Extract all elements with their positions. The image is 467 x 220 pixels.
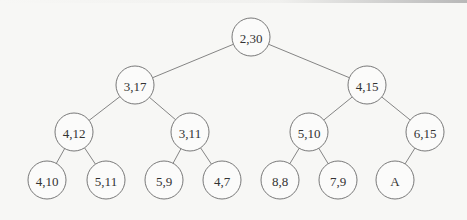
node-label: 5,11 xyxy=(95,174,117,189)
tree-edge xyxy=(153,44,234,77)
tree-node-leaf: 4,7 xyxy=(203,161,241,199)
tree-node: 4,15 xyxy=(348,66,386,104)
tree-edge xyxy=(382,97,410,120)
tree-edge xyxy=(405,148,415,164)
tree-node: 3,17 xyxy=(116,66,154,104)
tree-edge xyxy=(56,149,64,164)
node-label: 6,15 xyxy=(414,126,437,141)
tree-node-root: 2,30 xyxy=(232,18,270,56)
tree-edge xyxy=(324,97,352,120)
node-label: 8,8 xyxy=(272,174,288,189)
tree-edge xyxy=(89,97,120,121)
tree-node-leaf: 5,11 xyxy=(87,161,125,199)
tree-diagram: 2,30 3,17 4,15 4,12 3,11 5,10 6,15 4,10 … xyxy=(0,0,467,220)
node-label: 5,9 xyxy=(156,174,172,189)
tree-edge xyxy=(201,148,212,164)
tree-edge xyxy=(290,148,299,163)
tree-node-leaf: 7,9 xyxy=(319,161,357,199)
tree-node: 5,10 xyxy=(290,113,328,151)
tree-edges xyxy=(56,44,415,164)
tree-node: 6,15 xyxy=(406,113,444,151)
tree-node: 4,12 xyxy=(55,113,93,151)
tree-edge xyxy=(173,149,181,164)
node-label: 2,30 xyxy=(240,31,263,46)
tree-edge xyxy=(85,148,96,164)
node-label: 7,9 xyxy=(330,174,346,189)
tree-node-leaf: 8,8 xyxy=(261,161,299,199)
tree-edge xyxy=(269,44,350,77)
node-label: 3,11 xyxy=(179,126,201,141)
node-label: 4,12 xyxy=(63,126,86,141)
tree-node: 3,11 xyxy=(171,113,209,151)
node-label: 4,15 xyxy=(356,79,379,94)
tree-edge xyxy=(319,148,328,163)
node-label: 3,17 xyxy=(124,79,147,94)
tree-node-leaf: 5,9 xyxy=(145,161,183,199)
node-label: A xyxy=(390,174,400,189)
node-label: 4,10 xyxy=(36,174,59,189)
tree-nodes: 2,30 3,17 4,15 4,12 3,11 5,10 6,15 4,10 … xyxy=(28,18,444,199)
node-label: 5,10 xyxy=(298,126,321,141)
tree-edge xyxy=(149,97,175,119)
tree-node-leaf: A xyxy=(376,161,414,199)
node-label: 4,7 xyxy=(214,174,231,189)
tree-node-leaf: 4,10 xyxy=(28,161,66,199)
